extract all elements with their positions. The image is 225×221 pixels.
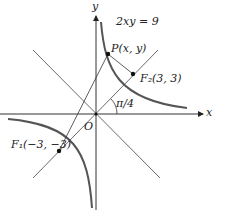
segment-p-f2 xyxy=(108,54,133,74)
focus2-label: F₂(3, 3) xyxy=(140,72,182,85)
point-f2 xyxy=(131,72,135,76)
hyperbola-diagram xyxy=(0,0,225,221)
point-p xyxy=(106,52,110,56)
equation-label: 2xy = 9 xyxy=(116,15,159,28)
x-axis-label: x xyxy=(206,106,212,119)
y-axis-label: y xyxy=(92,0,98,13)
focus1-label: F₁(−3, −3) xyxy=(11,138,71,151)
segment-p-f1 xyxy=(59,54,108,151)
origin-label: O xyxy=(84,120,93,133)
origin-point xyxy=(95,113,98,116)
point-p-label: P(x, y) xyxy=(111,42,146,55)
hyperbola-lower-branch xyxy=(8,119,92,208)
angle-label: π/4 xyxy=(116,97,134,110)
